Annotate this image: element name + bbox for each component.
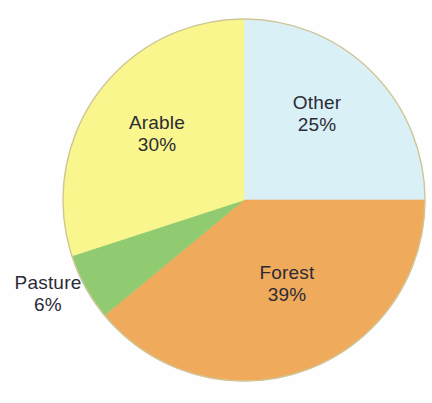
slice-label-forest: Forest 39% [232, 262, 342, 307]
slice-label-pasture-value: 6% [0, 294, 98, 316]
slice-label-arable: Arable 30% [102, 112, 212, 157]
slice-label-arable-name: Arable [102, 112, 212, 134]
slice-label-pasture: Pasture 6% [0, 272, 98, 317]
slice-label-pasture-name: Pasture [0, 272, 98, 294]
slice-label-forest-name: Forest [232, 262, 342, 284]
slice-label-forest-value: 39% [232, 284, 342, 306]
pie-chart-canvas [0, 0, 432, 403]
slice-label-other-name: Other [262, 92, 372, 114]
slice-label-other: Other 25% [262, 92, 372, 137]
slice-label-arable-value: 30% [102, 134, 212, 156]
slice-label-other-value: 25% [262, 114, 372, 136]
pie-slice-group [63, 19, 425, 381]
pie-chart: Other 25% Forest 39% Pasture 6% Arable 3… [0, 0, 432, 403]
